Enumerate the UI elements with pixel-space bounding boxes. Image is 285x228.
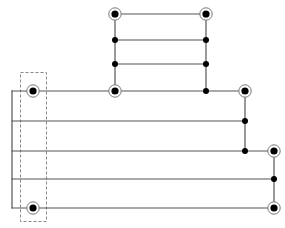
junction-dot <box>271 176 277 182</box>
terminal-node <box>200 8 212 20</box>
junction-dot <box>203 61 209 67</box>
terminal-dot <box>241 87 248 94</box>
terminal-dot <box>202 10 209 17</box>
circuit-diagram <box>0 0 285 228</box>
junction-nodes <box>112 37 277 182</box>
terminal-node <box>268 145 280 157</box>
junction-dot <box>112 61 118 67</box>
terminal-node <box>27 202 39 214</box>
junction-dot <box>242 118 248 124</box>
junction-dot <box>203 88 209 94</box>
terminal-dot <box>111 10 118 17</box>
wires <box>12 14 274 208</box>
terminal-node <box>109 85 121 97</box>
terminal-dot <box>270 204 277 211</box>
terminal-dot <box>29 87 36 94</box>
terminal-dot <box>111 87 118 94</box>
terminal-dot <box>29 204 36 211</box>
terminal-node <box>268 202 280 214</box>
terminal-node <box>239 85 251 97</box>
terminal-node <box>27 85 39 97</box>
junction-dot <box>112 37 118 43</box>
terminal-nodes <box>27 8 280 214</box>
terminal-dot <box>270 147 277 154</box>
junction-dot <box>203 37 209 43</box>
junction-dot <box>242 148 248 154</box>
terminal-node <box>109 8 121 20</box>
